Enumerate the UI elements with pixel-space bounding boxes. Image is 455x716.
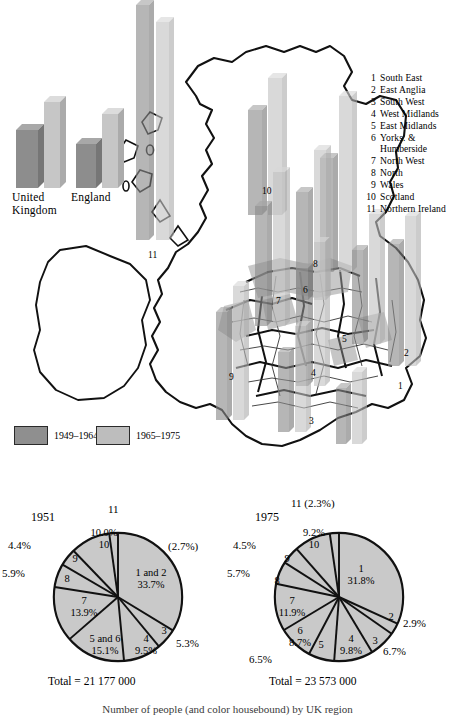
region-key-name: Scotland [380, 191, 455, 203]
pie-1975-label-11: 11 (2.3%) [291, 497, 335, 509]
region-key-name: South West [380, 96, 455, 108]
map-region-number-8: 8 [313, 259, 318, 269]
map-region-number-10: 10 [262, 186, 272, 196]
pie-1975-slice-1: 1 31.8% [335, 563, 387, 586]
region-key-item-2: 2East Anglia [362, 84, 455, 96]
region-key-list: 1South East2East Anglia3South West4West … [362, 72, 455, 215]
pie-1975-slice-7: 7 11.9% [265, 595, 319, 618]
region-key-item-4: 4West Midlands [362, 108, 455, 120]
pie-1951-slice-7-pct: 13.9% [70, 607, 97, 618]
region-key-name: North West [380, 155, 455, 167]
pie-1951-slice-10-name: 10 [99, 539, 110, 550]
region-key-name: West Midlands [380, 108, 455, 120]
pie-1951-label-9-pct: 4.4% [8, 539, 31, 551]
region-key-name: Wales [380, 179, 455, 191]
pie-1975-total: Total = 23 573 000 [269, 675, 356, 687]
region-key-name: South East [380, 72, 455, 84]
region-key-item-1: 1South East [362, 72, 455, 84]
pie-1951-slice-1and2-pct: 33.7% [137, 579, 164, 590]
map-region-number-1: 1 [398, 381, 403, 391]
region-key-item-3: 3South West [362, 96, 455, 108]
pie-1975-label-3-pct: 6.7% [383, 645, 406, 657]
region-key-item-8: 8North [362, 167, 455, 179]
pie-1975-slice-4: 4 9.8% [331, 633, 371, 656]
pie-panel: 1951 4.4% 5.9% (2.7%) 5.3% 11 10.0% 10 9… [0, 505, 455, 716]
region-key-number: 11 [362, 203, 380, 215]
region-key-number: 7 [362, 155, 380, 167]
region-key-name: East Midlands [380, 120, 455, 132]
pie-1951-label-8-pct: 5.9% [2, 567, 25, 579]
region-key-item-9: 9Wales [362, 179, 455, 191]
region-key-item-7: 7North West [362, 155, 455, 167]
pie-1951-slice-1and2: 1 and 2 33.7% [118, 567, 184, 590]
legend-item-1949-1964: 1949–1964 [14, 426, 98, 445]
map-region-number-2: 2 [404, 348, 409, 358]
map-region-number-7: 7 [276, 296, 281, 306]
pie-1951-label-3-pct: 5.3% [176, 637, 199, 649]
pie-chart-1951: 1951 4.4% 5.9% (2.7%) 5.3% 11 10.0% 10 9… [0, 505, 227, 716]
pie-1951-slice-10: 10.0% 10 [78, 527, 130, 550]
pie-1975-label-9-pct: 4.5% [233, 539, 256, 551]
map-region-number-11: 11 [148, 250, 157, 260]
pie-1975-slice-10-name: 10 [309, 539, 320, 550]
pie-1975-slice-6-name: 6 [297, 625, 302, 636]
figure-caption: Number of people (and color housebound) … [0, 703, 455, 716]
region-key-item-5: 5East Midlands [362, 120, 455, 132]
region-key-item-6: 6Yorks. & [362, 132, 455, 144]
pie-1975-slice-3-name: 3 [367, 635, 383, 647]
pie-1975-label-5-pct: 6.5% [249, 653, 272, 665]
pie-1975-slice-10-pct: 9.2% [303, 527, 325, 538]
region-key-number: 4 [362, 108, 380, 120]
pie-1975-slice-1-name: 1 [358, 563, 363, 574]
region-key-number: 3 [362, 96, 380, 108]
region-key-number: 8 [362, 167, 380, 179]
pie-1951-title: 1951 [31, 511, 55, 523]
region-key-number: 9 [362, 179, 380, 191]
inset-label-england: England [71, 191, 111, 204]
region-key-name: Yorks. & [380, 132, 455, 144]
legend-swatch-light [96, 426, 130, 445]
pie-1951-slice-8-name: 8 [58, 573, 76, 585]
pie-1951-label-11: 11 [108, 503, 119, 515]
region-key-name-continuation: Humberside [362, 143, 455, 155]
pie-1975-slice-10: 9.2% 10 [293, 527, 335, 550]
pie-1951-label-11-pct: (2.7%) [168, 540, 198, 552]
map-region-number-6: 6 [303, 285, 308, 295]
pie-chart-1975: 1975 11 (2.3%) 4.5% 5.7% 6.5% 2.9% 6.7% … [227, 505, 454, 716]
pie-1951-slice-5and6-name: 5 and 6 [90, 633, 121, 644]
map-region-number-5: 5 [342, 334, 347, 344]
region-key-number: 5 [362, 120, 380, 132]
region-key-item-11: 11Northern Ireland [362, 203, 455, 215]
pie-1951-slice-4-pct: 9.5% [135, 645, 157, 656]
pie-1975-title: 1975 [255, 511, 279, 523]
map-region-number-9: 9 [229, 372, 234, 382]
inset-label-united-kingdom: United Kingdom [12, 191, 57, 217]
pie-1951-slice-3-name: 3 [156, 625, 172, 637]
figure-uk-regions: United Kingdom England 1234567891011 1So… [0, 0, 455, 716]
pie-1975-label-8-pct: 5.7% [227, 567, 250, 579]
pie-1951-slice-10-pct: 10.0% [90, 527, 117, 538]
inset-bar-chart [8, 88, 133, 193]
pie-1951-total: Total = 21 177 000 [48, 675, 135, 687]
pie-1951-slice-7: 7 13.9% [58, 595, 110, 618]
pie-1975-slice-9-name: 9 [279, 553, 295, 565]
legend-item-1965-1975: 1965–1975 [96, 426, 180, 445]
pie-1951-slice-5and6: 5 and 6 15.1% [74, 633, 136, 656]
pie-1975-label-2-pct: 2.9% [403, 617, 426, 629]
pie-1975-slice-2-name: 2 [383, 611, 399, 623]
pie-1975-slice-4-pct: 9.8% [340, 645, 362, 656]
region-key-number: 1 [362, 72, 380, 84]
map-region-number-3: 3 [309, 416, 314, 426]
legend-label-1965-1975: 1965–1975 [136, 430, 180, 441]
pie-1975-slice-5-name: 5 [313, 639, 329, 651]
region-key-number: 2 [362, 84, 380, 96]
pie-1975-slice-7-pct: 11.9% [279, 607, 306, 618]
map-panel: United Kingdom England 1234567891011 1So… [0, 0, 455, 505]
pie-1975-slice-7-name: 7 [289, 595, 294, 606]
region-key-number: 6 [362, 132, 380, 144]
map-legend: 1949–1964 1965–1975 [14, 426, 214, 448]
pie-1975-slice-4-name: 4 [348, 633, 353, 644]
pie-1975-slice-1-pct: 31.8% [347, 575, 374, 586]
legend-swatch-dark [14, 426, 48, 445]
region-key-name: Northern Ireland [380, 203, 455, 215]
